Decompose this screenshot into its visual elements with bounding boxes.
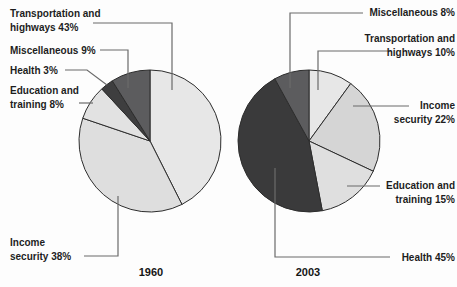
label-2003-transportation: Transportation and highways 10% xyxy=(364,32,455,60)
pie-1960 xyxy=(79,70,221,212)
pie-2003 xyxy=(238,70,380,212)
label-1960-health: Health 3% xyxy=(10,64,58,78)
label-2003-income: Income security 22% xyxy=(394,99,455,127)
label-2003-education: Education and training 15% xyxy=(386,179,455,207)
year-label-1960: 1960 xyxy=(131,266,171,278)
label-1960-income: Income security 38% xyxy=(10,236,71,264)
label-2003-health: Health 45% xyxy=(402,251,455,265)
leader-1960-health xyxy=(65,70,107,85)
label-1960-education: Education and training 8% xyxy=(10,84,79,112)
label-1960-transportation: Transportation and highways 43% xyxy=(10,7,101,35)
label-2003-miscellaneous: Miscellaneous 8% xyxy=(369,6,455,20)
pie-chart-figure: Transportation and highways 43% Miscella… xyxy=(0,0,457,287)
label-1960-miscellaneous: Miscellaneous 9% xyxy=(10,44,96,58)
leader-1960-income xyxy=(84,196,118,256)
year-label-2003: 2003 xyxy=(288,266,328,278)
